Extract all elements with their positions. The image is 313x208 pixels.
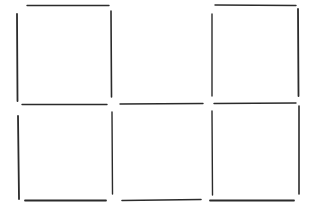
edge-bottom-center [122, 200, 201, 201]
edge-top-row-v2 [111, 11, 112, 97]
edge-middle-center [120, 104, 203, 105]
edge-top-row-v4 [298, 9, 299, 96]
hand-drawn-grid [0, 0, 313, 208]
edge-bottom-row-v1 [18, 116, 19, 199]
edge-bottom-row-v2 [112, 112, 113, 194]
edge-middle-right [214, 103, 296, 104]
edge-top-right-cell-top [215, 5, 296, 6]
edge-bottom-row-v3 [212, 111, 213, 195]
edge-top-row-v1 [17, 14, 18, 101]
